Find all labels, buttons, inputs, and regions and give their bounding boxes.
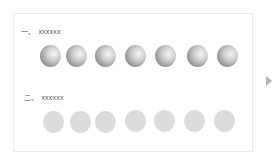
shaded-circle-4[interactable] — [125, 45, 146, 67]
flat-circle-2[interactable] — [70, 111, 91, 133]
shaded-circle-5[interactable] — [155, 45, 176, 67]
flat-circle-7[interactable] — [214, 110, 235, 132]
shaded-circle-1[interactable] — [40, 45, 61, 67]
flat-circle-3[interactable] — [95, 111, 116, 133]
section-1-number: 一、 — [21, 28, 35, 35]
shaded-circle-2[interactable] — [66, 45, 87, 67]
section-1-label: 一、xxxxxx — [21, 26, 61, 36]
section-2-number: 二、 — [24, 94, 38, 101]
flat-circle-6[interactable] — [184, 110, 205, 132]
shaded-circle-6[interactable] — [187, 45, 208, 67]
flat-circle-1[interactable] — [43, 111, 64, 133]
triangle-right-icon[interactable] — [266, 76, 272, 86]
flat-circle-5[interactable] — [154, 110, 175, 132]
section-2-label: 二、xxxxxx — [24, 92, 64, 102]
section-1-title: xxxxxx — [38, 28, 60, 35]
shaded-circle-7[interactable] — [217, 45, 238, 67]
shaded-circle-3[interactable] — [95, 45, 116, 67]
flat-circle-4[interactable] — [125, 110, 146, 132]
section-2-title: xxxxxx — [41, 94, 63, 101]
